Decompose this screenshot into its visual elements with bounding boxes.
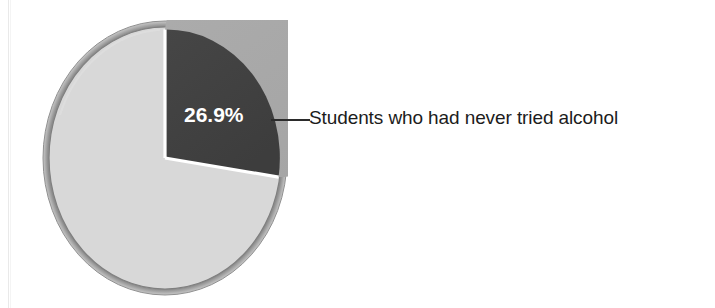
- slice-percent-label: 26.9%: [184, 102, 244, 128]
- leader-line: [271, 119, 310, 121]
- pie-graphic: [42, 20, 288, 296]
- slice-series-label: Students who had never tried alcohol: [309, 106, 618, 130]
- pie-chart-figure: 26.9% Students who had never tried alcoh…: [0, 0, 715, 308]
- page-edge-artifact: [8, 0, 9, 308]
- page-edge-artifact-secondary: [10, 0, 11, 308]
- pie-svg: [42, 20, 288, 296]
